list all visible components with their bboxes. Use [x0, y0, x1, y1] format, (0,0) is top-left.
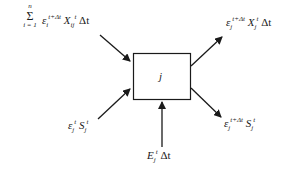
superscript: t	[74, 118, 76, 126]
subscript: j	[72, 126, 74, 134]
superscript: t+Δt	[232, 15, 245, 23]
variable-X: X	[248, 16, 255, 28]
label-out-top-right: εjt+Δt Xjt Δt	[226, 17, 271, 28]
label-in-bottom: Ejt Δt	[147, 150, 171, 161]
superscript: t	[86, 118, 88, 126]
subscript: j	[255, 23, 257, 31]
delta-t: Δt	[261, 16, 271, 28]
node-label: j	[159, 70, 162, 82]
superscript: t	[74, 13, 76, 21]
arrow-in-top-left	[100, 35, 130, 61]
label-in-top-left: εit+Δt Xijt Δt	[42, 15, 89, 26]
summation-operator: n Σ i = 1	[19, 3, 41, 29]
subscript: j	[230, 23, 232, 31]
variable-E: E	[147, 149, 154, 161]
superscript: t+Δt	[48, 13, 61, 21]
variable-X: X	[64, 14, 71, 26]
subscript: j	[251, 124, 253, 132]
subscript: i	[46, 21, 48, 29]
label-in-bottom-left: εjt Sjt	[68, 120, 88, 131]
arrow-in-bottom-left	[98, 89, 130, 119]
superscript: t	[253, 116, 255, 124]
superscript: t+Δt	[230, 116, 243, 124]
delta-t: Δt	[79, 14, 89, 26]
subscript: j	[228, 124, 230, 132]
label-out-bottom-right: εjt+Δt Sjt	[224, 118, 255, 129]
superscript: t	[256, 15, 258, 23]
superscript: t	[156, 148, 158, 156]
delta-t: Δt	[160, 149, 170, 161]
subscript: j	[154, 156, 156, 164]
arrow-out-top-right	[191, 37, 222, 66]
sum-lower-limit: i = 1	[23, 21, 37, 29]
arrow-out-bottom-right	[191, 88, 221, 117]
subscript: ij	[71, 21, 75, 29]
subscript: j	[85, 126, 87, 134]
